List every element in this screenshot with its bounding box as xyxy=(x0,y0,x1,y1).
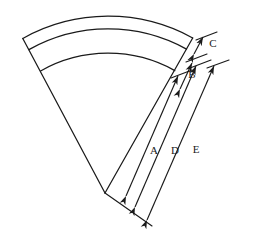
extension-lines xyxy=(105,32,229,226)
right-radial-edge xyxy=(105,38,193,193)
middle-arc xyxy=(29,29,187,50)
dimension-line-a xyxy=(126,76,178,196)
dimension-label-e: E xyxy=(193,143,200,155)
dimension-label-c: C xyxy=(209,37,216,49)
extension-line-top-d xyxy=(190,60,211,68)
extension-line-top-e xyxy=(207,60,229,68)
dimension-label-b: B xyxy=(188,68,195,80)
left-radial-edge xyxy=(23,39,105,194)
diagram-canvas: A B C D E xyxy=(0,0,253,245)
inner-arc xyxy=(41,53,175,71)
dimension-label-a: A xyxy=(150,144,158,156)
extension-line-bottom xyxy=(105,193,152,226)
extension-line-top-b xyxy=(186,54,207,62)
dimension-label-d: D xyxy=(171,144,179,156)
sector-outline xyxy=(23,16,193,193)
annular-sector-diagram: A B C D E xyxy=(0,0,253,245)
outer-arc xyxy=(23,16,193,38)
